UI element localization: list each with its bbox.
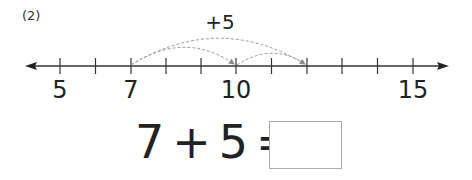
jump-arc-7-to-12 (131, 38, 305, 65)
answer-box[interactable] (269, 121, 342, 169)
addend-a: 7 (135, 119, 164, 165)
jump-arc-7-to-10 (131, 47, 234, 65)
addend-b: 5 (219, 119, 248, 165)
tick-label-7: 7 (123, 78, 138, 102)
jump-label: +5 (205, 12, 234, 32)
plus-sign: + (172, 119, 211, 165)
tick-label-5: 5 (52, 78, 67, 102)
tick-label-10: 10 (221, 78, 252, 102)
tick-label-15: 15 (398, 78, 429, 102)
